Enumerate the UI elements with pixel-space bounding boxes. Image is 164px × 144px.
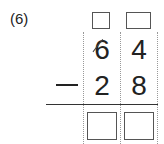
subtrahend-tens-digit: 2 xyxy=(84,72,120,100)
minuend-ones-digit: 4 xyxy=(121,36,157,64)
borrow-box-tens[interactable] xyxy=(92,12,110,29)
borrow-box-ones[interactable] xyxy=(126,12,151,29)
answer-box-tens[interactable] xyxy=(87,112,117,140)
answer-rule xyxy=(46,104,158,105)
minus-sign xyxy=(56,84,78,86)
column-guide-right xyxy=(157,32,158,144)
subtrahend-ones-digit: 8 xyxy=(121,72,157,100)
answer-box-ones[interactable] xyxy=(124,112,154,140)
problem-number-label: (6) xyxy=(10,10,28,27)
